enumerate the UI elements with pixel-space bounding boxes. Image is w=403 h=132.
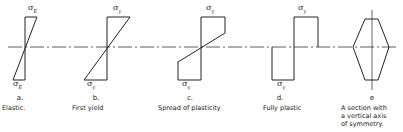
panel-e-caption-line-2: a vertical axis <box>341 112 387 120</box>
panel-c-caption: Spread of plasticity <box>158 104 221 112</box>
panel-c-top-stress-label: σy <box>206 3 214 14</box>
panel-c-letter: c. <box>184 94 196 102</box>
panel-c-spread-of-plasticity <box>178 17 225 80</box>
panel-b-first-yield <box>84 17 130 80</box>
panel-e-caption: A section with a vertical axis of symmet… <box>341 104 387 128</box>
panel-d-bottom-stress-label: σy <box>277 79 285 90</box>
panel-e-caption-line-3: of symmetry. <box>341 120 387 128</box>
panel-b-letter: b. <box>90 94 102 102</box>
panel-a-bottom-stress-label: σE <box>13 79 22 90</box>
panel-d-letter: d. <box>274 94 286 102</box>
panel-a-top-stress-label: σE <box>28 3 37 14</box>
panel-b-top-stress-label: σy <box>113 3 121 14</box>
panel-b-caption: First yield <box>72 104 103 112</box>
panel-d-caption: Fully plastic <box>263 104 301 112</box>
panel-e-symmetric-section <box>353 10 389 90</box>
panel-a-letter: a. <box>14 94 26 102</box>
panel-e-caption-line-1: A section with <box>341 104 387 112</box>
panel-e-letter: e <box>366 94 378 102</box>
panel-a-caption: Elastic. <box>2 104 25 112</box>
panel-d-top-stress-label: σy <box>298 3 306 14</box>
panel-c-bottom-stress-label: σy <box>182 79 190 90</box>
panel-b-bottom-stress-label: σy <box>87 79 95 90</box>
panel-a-elastic <box>13 17 37 80</box>
panel-d-fully-plastic <box>272 17 318 80</box>
